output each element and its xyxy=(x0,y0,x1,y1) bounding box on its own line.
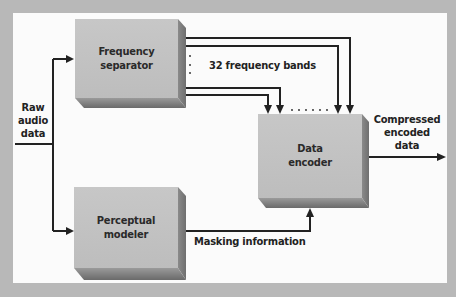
output-label: Compressed encoded data xyxy=(367,113,447,152)
perceptual-modeler-label-2: modeler xyxy=(104,228,149,242)
masking-information-label: Masking information xyxy=(194,235,306,248)
raw-audio-line-3: data xyxy=(14,127,52,140)
perceptual-modeler-label-1: Perceptual xyxy=(97,214,155,228)
frequency-separator-label-2: separator xyxy=(100,59,153,73)
data-encoder-label-1: Data xyxy=(297,142,323,156)
output-line-3: data xyxy=(367,139,447,152)
raw-audio-label: Raw audio data xyxy=(14,101,52,140)
output-line-2: encoded xyxy=(367,126,447,139)
raw-audio-line-1: Raw xyxy=(14,101,52,114)
output-line-1: Compressed xyxy=(367,113,447,126)
raw-audio-line-2: audio xyxy=(14,114,52,127)
frequency-bands-label: 32 frequency bands xyxy=(209,59,316,72)
frequency-separator-label-1: Frequency xyxy=(98,45,154,59)
data-encoder-label-2: encoder xyxy=(288,156,332,170)
